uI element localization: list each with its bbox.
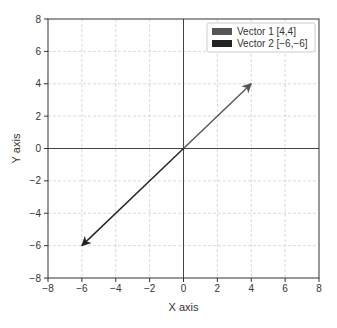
x-tick-labels: −8−6−4−202468	[42, 283, 322, 294]
x-tick-label: 6	[282, 283, 288, 294]
legend-label-vector-1: Vector 1 [4,4]	[237, 26, 296, 37]
y-tick-label: 6	[35, 46, 41, 57]
vectors	[82, 84, 251, 246]
chart-canvas: −8−6−4−202468 −8−6−4−202468 X axis Y axi…	[0, 0, 337, 328]
y-tick-label: 4	[35, 78, 41, 89]
y-tick-label: 2	[35, 111, 41, 122]
x-tick-label: 2	[215, 283, 221, 294]
vector-chart: −8−6−4−202468 −8−6−4−202468 X axis Y axi…	[0, 0, 337, 328]
y-tick-label: −2	[30, 175, 42, 186]
x-tick-label: −6	[76, 283, 88, 294]
x-tick-label: −8	[42, 283, 54, 294]
y-tick-label: 8	[35, 14, 41, 25]
x-axis-label: X axis	[169, 301, 199, 313]
y-tick-label: −4	[30, 208, 42, 219]
x-tick-label: 4	[248, 283, 254, 294]
x-tick-label: 0	[181, 283, 187, 294]
vector-arrow-2	[82, 149, 184, 246]
legend-swatch-vector-2	[212, 40, 232, 47]
x-tick-label: −2	[144, 283, 156, 294]
x-tick-label: −4	[110, 283, 122, 294]
y-tick-labels: −8−6−4−202468	[30, 14, 42, 284]
y-axis-label: Y axis	[10, 133, 22, 163]
legend-swatch-vector-1	[212, 28, 232, 35]
y-tick-label: 0	[35, 143, 41, 154]
y-tick-label: −8	[30, 273, 42, 284]
legend: Vector 1 [4,4] Vector 2 [−6,−6]	[207, 23, 315, 52]
x-tick-label: 8	[316, 283, 322, 294]
legend-label-vector-2: Vector 2 [−6,−6]	[237, 38, 308, 49]
y-tick-label: −6	[30, 240, 42, 251]
